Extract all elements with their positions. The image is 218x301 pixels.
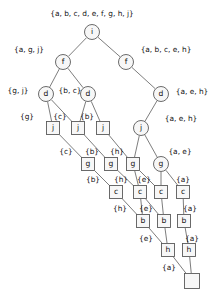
graph-node-g[interactable]: g — [154, 157, 169, 172]
node-label: c — [159, 187, 163, 196]
node-label: j — [139, 123, 142, 132]
node-label: d — [159, 89, 164, 98]
graph-node-g[interactable]: g — [105, 158, 118, 171]
set-annotation-label: {a, e} — [168, 147, 191, 156]
node-square-shape — [185, 274, 200, 289]
set-annotation-label: {b} — [86, 175, 100, 184]
graph-node-h[interactable]: h — [162, 244, 175, 257]
set-annotation-label: {c} — [59, 147, 72, 156]
set-annotation-label: {a} — [162, 263, 176, 272]
node-label: b — [141, 216, 146, 225]
decision-diagram-figure: iffdddjjjjggggccccbbbhh {a, b, c, d, e, … — [0, 0, 218, 301]
graph-edge — [98, 37, 120, 56]
set-annotation-label: {a, b, c, e, h} — [141, 45, 192, 54]
graph-node-c[interactable]: c — [110, 186, 123, 199]
node-label: f — [125, 57, 128, 66]
set-annotation-label: {b} — [80, 112, 94, 121]
graph-node-j[interactable]: j — [97, 122, 110, 135]
graph-node-g[interactable]: g — [127, 158, 140, 171]
node-label: j — [51, 123, 54, 132]
set-annotation-label: {a} — [185, 234, 199, 243]
graph-edge — [68, 68, 83, 87]
graph-edge — [50, 69, 60, 87]
set-annotation-label: {g, j} — [8, 86, 29, 95]
set-annotation-label: {a, g, j} — [14, 45, 44, 54]
set-annotation-label: {h} — [110, 147, 124, 156]
node-label: d — [44, 89, 49, 98]
graph-node-g[interactable]: g — [82, 158, 95, 171]
set-annotation-label: {e} — [137, 175, 151, 184]
node-label: j — [76, 123, 79, 132]
graph-edge — [165, 228, 167, 243]
graph-node-h[interactable]: h — [183, 244, 196, 257]
set-annotation-label: {g} — [20, 112, 34, 121]
set-annotation-label: {b, c} — [59, 86, 82, 95]
graph-node-f[interactable]: f — [119, 55, 134, 70]
graph-node-b[interactable]: b — [158, 215, 171, 228]
graph-edge — [162, 199, 164, 214]
set-annotation-label: {a} — [183, 204, 197, 213]
graph-edge — [132, 67, 155, 88]
graph-edge — [190, 257, 192, 273]
graph-node-b[interactable]: b — [137, 215, 150, 228]
set-annotation-label: {h} — [113, 204, 127, 213]
graph-node-j[interactable]: j — [72, 122, 85, 135]
node-label: h — [187, 245, 192, 254]
graph-node-b[interactable]: b — [178, 215, 191, 228]
node-label: f — [62, 57, 65, 66]
set-annotation-label: {a, e, h} — [176, 87, 209, 96]
graph-node-d[interactable]: d — [39, 87, 54, 102]
node-label: j — [101, 123, 104, 132]
node-layer: iffdddjjjjggggccccbbbhh — [39, 25, 200, 289]
graph-edge — [48, 102, 52, 121]
graph-node-c[interactable]: c — [134, 186, 147, 199]
set-annotation-label: {h} — [114, 175, 128, 184]
node-label: b — [182, 216, 187, 225]
set-annotation-label: {e} — [139, 234, 153, 243]
set-annotation-label: {a, b, c, d, e, f, g, h, j} — [50, 9, 134, 18]
node-label: b — [162, 216, 167, 225]
graph-node-j[interactable]: j — [134, 121, 149, 136]
node-label: c — [138, 187, 142, 196]
graph-node-d[interactable]: d — [81, 87, 96, 102]
graph-node-d[interactable]: d — [154, 87, 169, 102]
graph-edge — [135, 136, 140, 157]
node-label: c — [114, 187, 118, 196]
node-label: g — [86, 159, 91, 168]
node-label: i — [91, 27, 93, 36]
node-label: g — [131, 159, 136, 168]
graph-node-j[interactable]: j — [47, 122, 60, 135]
graph-edge — [145, 135, 157, 157]
set-label-layer: {a, b, c, d, e, f, g, h, j}{a, g, j}{a, … — [8, 9, 209, 272]
set-annotation-label: {e} — [139, 204, 153, 213]
node-label: h — [166, 245, 171, 254]
set-annotation-label: {a} — [176, 175, 190, 184]
graph-node-terminal[interactable] — [185, 274, 200, 289]
node-label: d — [86, 89, 91, 98]
node-label: g — [159, 159, 164, 168]
node-label: g — [109, 159, 114, 168]
graph-node-i[interactable]: i — [85, 25, 100, 40]
node-label: c — [181, 187, 185, 196]
set-annotation-label: {a, e, h} — [165, 114, 198, 123]
set-annotation-label: {c} — [53, 112, 66, 121]
graph-node-c[interactable]: c — [177, 186, 190, 199]
graph-node-f[interactable]: f — [56, 55, 71, 70]
graph-node-c[interactable]: c — [155, 186, 168, 199]
graph-edge — [69, 38, 87, 57]
graph-edge — [145, 101, 157, 121]
set-annotation-label: {b} — [85, 147, 99, 156]
